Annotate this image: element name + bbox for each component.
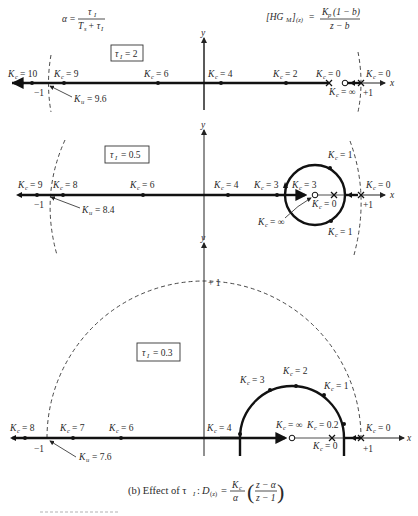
svg-text:τ: τ xyxy=(110,150,114,160)
svg-text:= 3: = 3 xyxy=(266,180,279,190)
svg-text:= 2: = 2 xyxy=(285,69,298,79)
panel-tau-0.3: y x + 1 τ I = 0.3 xyxy=(9,233,412,463)
svg-text:c: c xyxy=(15,73,18,80)
svg-text:= 8: = 8 xyxy=(65,180,78,190)
svg-text:(b) Effect of τ: (b) Effect of τ xyxy=(128,485,187,497)
svg-text:c: c xyxy=(320,445,323,452)
svg-text:K: K xyxy=(143,69,151,79)
svg-text:τ: τ xyxy=(115,49,119,59)
svg-text:z − α: z − α xyxy=(255,480,277,490)
svg-text:c: c xyxy=(215,73,218,80)
svg-text:= 6: = 6 xyxy=(121,423,134,433)
svg-text:u: u xyxy=(89,209,93,216)
label-kc-0-plus-one: Kc= 0 xyxy=(365,69,391,80)
svg-text:K: K xyxy=(207,69,215,79)
svg-text:K: K xyxy=(365,69,373,79)
svg-text:−1: −1 xyxy=(34,444,44,454)
svg-text:= 0: = 0 xyxy=(378,69,391,79)
zero-marker xyxy=(342,80,348,86)
svg-text:c: c xyxy=(373,184,376,191)
svg-text:[HG: [HG xyxy=(266,12,284,22)
svg-text:= 3: = 3 xyxy=(304,180,317,190)
alpha-formula: α = τ I T s + τ I xyxy=(62,7,105,32)
svg-text:= 0.5: = 0.5 xyxy=(121,150,141,160)
svg-text:c: c xyxy=(261,184,264,191)
svg-text:K: K xyxy=(78,452,86,462)
svg-text:c: c xyxy=(314,424,317,431)
point-kc-9 xyxy=(62,81,66,85)
svg-text:c: c xyxy=(247,379,250,386)
svg-text:I: I xyxy=(100,25,104,32)
svg-text:c: c xyxy=(373,73,376,80)
label-kc-9: Kc= 9 xyxy=(53,69,79,80)
svg-text:= 2: = 2 xyxy=(295,366,308,376)
svg-text:K: K xyxy=(108,423,116,433)
point-kc-10 xyxy=(30,81,34,85)
svg-text:= 9.6: = 9.6 xyxy=(87,94,107,104)
svg-text:K: K xyxy=(275,420,283,430)
svg-text:(z): (z) xyxy=(210,490,217,498)
svg-text:K: K xyxy=(17,180,25,190)
label-kc-0-pole: Kc= 0 xyxy=(315,69,341,80)
svg-text:= 0: = 0 xyxy=(325,441,338,451)
svg-text:c: c xyxy=(60,184,63,191)
svg-text:c: c xyxy=(61,73,64,80)
svg-text:K: K xyxy=(129,180,137,190)
plant-formula: [HG M ] (z) = K p (1 − b) z − b xyxy=(266,7,360,31)
svg-text:c: c xyxy=(265,221,268,228)
svg-text:= ∞: = ∞ xyxy=(270,217,285,227)
svg-text:K: K xyxy=(257,217,265,227)
svg-text:= 2: = 2 xyxy=(125,49,138,59)
left-paren: ( xyxy=(247,479,254,504)
svg-text:K: K xyxy=(239,375,247,385)
svg-text:c: c xyxy=(67,427,70,434)
svg-text:c: c xyxy=(335,154,338,161)
svg-text:K: K xyxy=(311,199,319,209)
svg-text:c: c xyxy=(214,427,217,434)
svg-text:= 0: = 0 xyxy=(324,199,337,209)
label-kc-2: Kc= 2 xyxy=(272,69,298,80)
svg-text:K: K xyxy=(312,441,320,451)
svg-text:= 4: = 4 xyxy=(220,69,233,79)
svg-text:K: K xyxy=(253,180,261,190)
svg-text:α: α xyxy=(233,493,239,503)
svg-text:x: x xyxy=(406,433,412,443)
svg-text:(1 − b): (1 − b) xyxy=(333,7,360,18)
svg-text::: : xyxy=(197,485,200,496)
svg-text:K: K xyxy=(306,420,314,430)
svg-text:c: c xyxy=(319,203,322,210)
svg-text:(z): (z) xyxy=(296,16,303,24)
svg-text:I: I xyxy=(93,11,97,18)
svg-text:= 8: = 8 xyxy=(22,423,35,433)
svg-text:= 9: = 9 xyxy=(66,69,79,79)
svg-text:K: K xyxy=(53,69,61,79)
zero-marker xyxy=(312,192,318,198)
svg-text:c: c xyxy=(116,427,119,434)
svg-text:K: K xyxy=(81,205,89,215)
ku-leader-arrow xyxy=(50,86,72,97)
root-locus-figure: α = τ I T s + τ I [HG M ] (z) = K p (1 −… xyxy=(0,0,418,516)
svg-text:x: x xyxy=(389,190,395,200)
svg-text:I: I xyxy=(192,490,196,497)
label-kc-4: Kc= 4 xyxy=(207,69,233,80)
svg-text:u: u xyxy=(81,98,85,105)
svg-text:K: K xyxy=(282,366,290,376)
svg-text:K: K xyxy=(272,69,280,79)
label-kc-infinity: Kc= ∞ xyxy=(328,87,356,98)
svg-text:= 0.3: = 0.3 xyxy=(153,348,173,358)
svg-text:= 4: = 4 xyxy=(226,180,239,190)
svg-text:K: K xyxy=(59,423,67,433)
figure-caption: (b) Effect of τ I : D (z) = K c α ( z − … xyxy=(128,479,284,504)
svg-text:K: K xyxy=(328,87,336,97)
svg-text:c: c xyxy=(280,73,283,80)
point-kc-2 xyxy=(284,81,288,85)
svg-text:=: = xyxy=(309,12,314,22)
svg-text:y: y xyxy=(200,233,206,243)
svg-text:c: c xyxy=(137,184,140,191)
svg-text:K: K xyxy=(365,180,373,190)
right-paren: ) xyxy=(277,479,284,504)
unit-circle-top-label: + 1 xyxy=(208,278,221,288)
svg-text:c: c xyxy=(239,484,242,491)
label-kc-10: Kc= 10 xyxy=(7,69,37,80)
svg-text:c: c xyxy=(25,184,28,191)
